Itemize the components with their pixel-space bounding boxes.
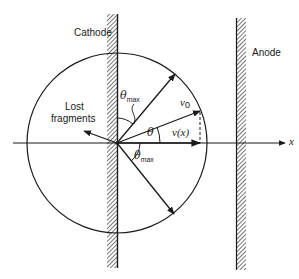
lost-fragments-label-line1: Lost xyxy=(65,102,84,112)
theta-max-lower-symbol: θ xyxy=(134,149,141,162)
anode-label: Anode xyxy=(252,48,281,58)
origin-point xyxy=(115,141,119,145)
theta-max-lower-subscript: max xyxy=(141,156,154,163)
x-axis-label: x xyxy=(289,136,294,147)
theta-max-upper-leader xyxy=(132,104,135,124)
theta-max-upper-vector xyxy=(117,74,175,143)
theta-max-upper-arc xyxy=(117,118,133,124)
lost-fragments-label-line2: fragments xyxy=(51,114,95,124)
theta-max-upper-subscript: max xyxy=(127,96,140,103)
v0-label: v0 xyxy=(180,97,190,110)
v0-subscript: 0 xyxy=(185,100,190,110)
theta-arc xyxy=(157,127,160,143)
theta-max-lower-label: θmax xyxy=(134,150,154,163)
anode-plate xyxy=(236,18,246,270)
theta-label: θ xyxy=(147,127,154,138)
cathode-label: Cathode xyxy=(74,28,112,38)
theta-max-upper-symbol: θ xyxy=(120,89,127,102)
vx-label: v(x) xyxy=(172,127,189,138)
emission-diagram xyxy=(0,0,299,279)
theta-max-upper-label: θmax xyxy=(120,90,140,103)
